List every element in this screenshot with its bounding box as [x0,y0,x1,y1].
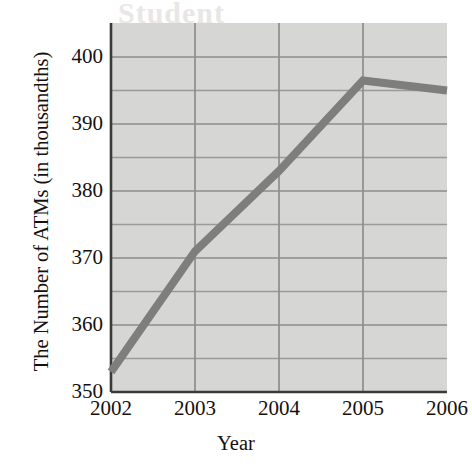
y-tick-label-390: 390 [43,111,103,136]
x-tick-label-2002: 2002 [76,396,146,421]
x-tick-label-2004: 2004 [244,396,314,421]
y-tick-label-370: 370 [43,245,103,270]
x-tick-label-2003: 2003 [160,396,230,421]
x-tick-label-2005: 2005 [328,396,398,421]
y-tick-label-400: 400 [43,44,103,69]
atm-line-chart [0,0,472,476]
y-axis-label: The Number of ATMs (in thousandths) [30,32,53,392]
x-tick-label-2006: 2006 [412,396,472,421]
x-axis-label: Year [0,432,472,455]
y-tick-label-360: 360 [43,312,103,337]
y-tick-label-380: 380 [43,178,103,203]
chart-page: Student The Number of ATMs (in thousandt… [0,0,472,476]
